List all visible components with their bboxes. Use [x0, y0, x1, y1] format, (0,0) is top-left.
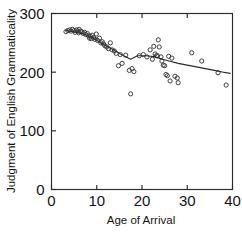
x-tick-label: 0: [47, 192, 55, 209]
x-tick-label: 10: [88, 192, 105, 209]
y-tick-label: 0: [36, 181, 44, 198]
x-tick-label: 30: [179, 192, 196, 209]
y-tick-label: 100: [19, 122, 44, 139]
y-tick-label: 300: [19, 5, 44, 22]
y-axis-title: Judgment of English Grammaticality: [5, 9, 17, 193]
chart-background: [0, 0, 242, 233]
x-axis-title: Age of Arrival: [107, 214, 175, 226]
x-tick-label: 40: [224, 192, 241, 209]
scatter-plot-figure: 010203040 0100200300 Age of Arrival Judg…: [0, 0, 242, 233]
chart-canvas: 010203040 0100200300 Age of Arrival Judg…: [0, 0, 242, 233]
x-tick-label: 20: [134, 192, 151, 209]
y-tick-label: 200: [19, 64, 44, 81]
